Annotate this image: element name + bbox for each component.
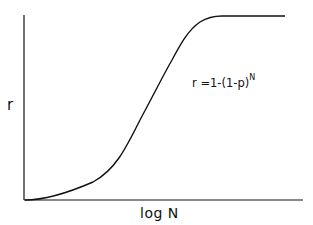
chart-canvas xyxy=(0,0,313,225)
y-axis-label: r xyxy=(7,96,13,114)
formula-annotation: r =1-(1-p)N xyxy=(192,75,255,90)
x-axis-label: log N xyxy=(140,205,179,221)
formula-main: r =1-(1-p) xyxy=(192,76,249,90)
sigmoid-curve xyxy=(25,16,285,200)
formula-exponent: N xyxy=(249,73,255,82)
